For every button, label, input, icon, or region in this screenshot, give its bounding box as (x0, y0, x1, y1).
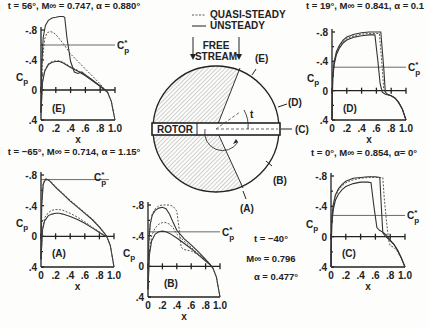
legend: QUASI-STEADY UNSTEADY (192, 9, 286, 31)
panel-b-mach: M∞ = 0.796 (246, 253, 295, 264)
x-axis-label: x (181, 311, 187, 322)
station-c-label: (C) (295, 124, 309, 135)
y-axis-label-sub: p (313, 224, 318, 233)
panel-label: (E) (52, 103, 65, 114)
cp-star-sub: p (415, 68, 420, 77)
cp-star-label: Cp* (407, 208, 419, 225)
x-axis-label: x (75, 134, 81, 145)
y-axis-label: Cp (123, 248, 135, 262)
rotor-label: ROTOR (157, 124, 194, 135)
cp-star-label: Cp* (94, 170, 106, 187)
y-tick-label: -.8 (25, 170, 37, 181)
y-tick-label: 0 (321, 232, 327, 243)
panel-label: (D) (343, 103, 357, 114)
x-tick-label: 0 (328, 270, 334, 281)
x-axis-label: x (366, 134, 372, 145)
series-quasi-steady-lower (41, 210, 107, 260)
y-tick-label: 0 (31, 85, 37, 96)
chart-title: t = −65°, M∞ = 0.714, α = 1.15° (8, 146, 141, 157)
station-a-label: (A) (240, 203, 254, 214)
series-unsteady-lower (148, 231, 213, 289)
chart-title: t = 19°, M∞ = 0.841, α = 0.1 (306, 0, 425, 11)
x-tick-label: .8 (387, 123, 396, 134)
y-axis-label-sub: p (130, 253, 135, 262)
x-axis-label: x (365, 281, 371, 292)
cp-chart-panel-c: t = 0°, M∞ = 0.854, α= 0°-.8-.40.40.2.4.… (306, 147, 419, 292)
station-e-label: (E) (255, 53, 268, 64)
x-axis-label: x (75, 281, 81, 292)
free-stream-label-1: FREE (203, 40, 230, 51)
x-tick-label: 0 (145, 300, 151, 311)
y-tick-label: .4 (136, 292, 145, 303)
y-axis-label: Cp (16, 218, 28, 232)
y-tick-label: .4 (319, 262, 328, 273)
x-tick-label: .4 (66, 123, 75, 134)
y-tick-label: -.8 (25, 25, 37, 36)
cp-chart-panel-e: t = 56°, M∞ = 0.747, α = 0.880°-.8-.40.4… (8, 0, 141, 145)
panel-label: (B) (164, 278, 178, 289)
y-tick-label: 0 (31, 231, 37, 242)
cp-star-sub: p (414, 216, 419, 225)
y-axis-label: Cp (307, 73, 319, 87)
chart-title: t = 0°, M∞ = 0.854, α= 0° (311, 147, 417, 158)
x-tick-label: .8 (201, 300, 210, 311)
x-tick-label: .2 (51, 270, 60, 281)
rotor-diagram: ROTOR t FREE STREAM (E) (D) (C) (B) (A) (100, 0, 309, 260)
y-tick-label: -.8 (316, 27, 328, 38)
cp-chart-panel-b: -.8-.40.40.2.4.6.81.0xCpCp*(B) (123, 200, 234, 322)
y-tick-label: -.4 (25, 201, 37, 212)
y-tick-label: 0 (138, 261, 144, 272)
series-unsteady-upper (148, 207, 220, 297)
x-tick-label: 1.0 (399, 123, 413, 134)
x-tick-label: .6 (81, 123, 90, 134)
cp-star-label: Cp* (222, 225, 234, 242)
y-axis-label-sub: p (23, 77, 28, 86)
x-tick-label: 1.0 (108, 123, 122, 134)
figure: QUASI-STEADY UNSTEADY ROTOR t FREE STRE (0, 0, 428, 327)
x-tick-label: .2 (52, 123, 61, 134)
series-quasi-steady-lower (41, 61, 108, 113)
x-tick-label: .6 (187, 300, 196, 311)
x-tick-label: .6 (372, 123, 381, 134)
station-b-label: (B) (273, 175, 287, 186)
cp-chart-panel-a: t = −65°, M∞ = 0.714, α = 1.15°-.8-.40.4… (8, 146, 141, 292)
cp-star-sub: p (124, 46, 129, 55)
y-tick-label: -.8 (315, 171, 327, 182)
panel-b-conditions: t = −40° M∞ = 0.796 α = 0.477° (246, 233, 298, 282)
y-tick-label: -.4 (25, 55, 37, 66)
x-tick-label: .8 (95, 270, 104, 281)
x-tick-label: .2 (343, 123, 352, 134)
x-tick-label: .4 (356, 270, 365, 281)
panel-label: (C) (342, 248, 356, 259)
cp-star-sub: p (101, 178, 106, 187)
x-tick-label: .6 (81, 270, 90, 281)
y-tick-label: 0 (322, 86, 328, 97)
y-tick-label: .4 (29, 262, 38, 273)
y-axis-label: Cp (16, 72, 28, 86)
x-tick-label: 1.0 (213, 300, 227, 311)
cp-star-label: Cp* (117, 38, 129, 55)
x-tick-label: .2 (158, 300, 167, 311)
chart-title: t = 56°, M∞ = 0.747, α = 0.880° (8, 0, 141, 11)
free-stream-label-2: STREAM (195, 51, 237, 62)
x-tick-label: 1.0 (398, 270, 412, 281)
station-d-label: (D) (288, 97, 302, 108)
panel-b-title: t = −40° (254, 233, 288, 244)
y-tick-label: .4 (320, 115, 329, 126)
y-tick-label: -.8 (132, 200, 144, 211)
x-tick-label: .4 (66, 270, 75, 281)
x-tick-label: .4 (357, 123, 366, 134)
y-axis-label-sub: p (314, 78, 319, 87)
cp-star-sub: p (229, 233, 234, 242)
y-tick-label: -.4 (316, 56, 328, 67)
series-quasi-steady-upper (148, 205, 220, 297)
y-tick-label: -.4 (132, 231, 144, 242)
cp-star-label: Cp* (408, 60, 420, 77)
x-tick-label: .8 (386, 270, 395, 281)
cp-chart-panel-d: t = 19°, M∞ = 0.841, α = 0.1-.8-.40.40.2… (306, 0, 425, 145)
legend-unsteady-label: UNSTEADY (210, 20, 265, 31)
x-tick-label: 1.0 (107, 270, 121, 281)
x-tick-label: .2 (342, 270, 351, 281)
x-tick-label: .8 (96, 123, 105, 134)
x-tick-label: .4 (173, 300, 182, 311)
